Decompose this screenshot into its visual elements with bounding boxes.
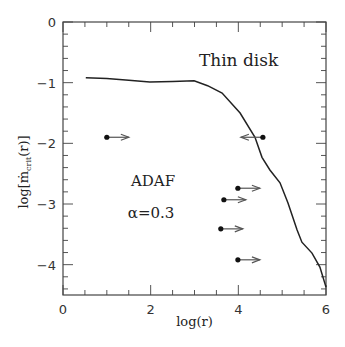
x-tick-label: 4 <box>234 302 242 317</box>
data-point <box>235 186 240 191</box>
y-axis-label-main: ṁ <box>16 171 31 183</box>
data-point <box>221 197 226 202</box>
plot-frame <box>63 22 326 295</box>
chart: 0246 0−1−2−3−4 Thin diskADAFα=0.3 log(r)… <box>0 0 345 347</box>
annotation-label: Thin disk <box>199 50 279 70</box>
x-tick-label: 6 <box>322 302 330 317</box>
y-tick-label: −4 <box>37 258 56 273</box>
axis-ticks <box>63 22 326 295</box>
y-tick-label: −3 <box>37 197 56 212</box>
data-point <box>104 135 109 140</box>
y-tick-label: −2 <box>37 136 56 151</box>
data-point <box>260 135 265 140</box>
x-tick-label: 2 <box>147 302 155 317</box>
series-line <box>86 78 326 287</box>
points-layer <box>104 134 265 263</box>
y-tick-label: 0 <box>48 15 56 30</box>
y-axis-label-prefix: log[ <box>16 183 31 208</box>
annotation-label: ADAF <box>130 172 175 190</box>
y-axis-label-sub: crit <box>24 156 33 171</box>
data-point <box>218 226 223 231</box>
y-axis-label: log[ṁcrit(r)] <box>16 135 33 208</box>
y-tick-label: −1 <box>37 76 56 91</box>
x-tick-label: 0 <box>59 302 67 317</box>
y-axis-label-suffix: (r)] <box>16 135 31 156</box>
annotations: Thin diskADAFα=0.3 <box>128 50 279 222</box>
x-axis-label: log(r) <box>176 314 213 329</box>
data-point <box>235 257 240 262</box>
annotation-label: α=0.3 <box>128 204 175 222</box>
y-tick-labels: 0−1−2−3−4 <box>37 15 56 273</box>
